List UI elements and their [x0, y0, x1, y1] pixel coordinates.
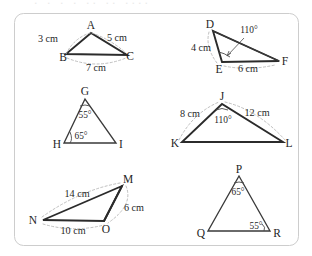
angle-label-e: 110° — [240, 25, 258, 35]
triangle-abc: A B C 3 cm 5 cm 7 cm — [38, 19, 134, 73]
angle-label-g: 55° — [78, 110, 91, 120]
vertex-label-f: F — [282, 55, 288, 67]
triangle-def-side-df — [213, 31, 279, 61]
triangle-ghi-angle-arc-h — [70, 132, 72, 143]
side-label-bc: 7 cm — [86, 62, 106, 73]
side-label-ac: 5 cm — [107, 32, 127, 43]
top-cut-off-text-strip: . . . . .. .. .... — [0, 0, 312, 11]
vertex-label-a: A — [87, 19, 96, 31]
vertex-label-c: C — [126, 50, 134, 62]
side-label-mo: 6 cm — [124, 202, 144, 213]
side-label-ef: 6 cm — [238, 63, 258, 74]
angle-label-h: 65° — [74, 131, 87, 141]
side-label-de: 4 cm — [191, 42, 211, 53]
vertex-label-d: D — [206, 18, 214, 30]
vertex-label-i: I — [119, 138, 123, 150]
worksheet-frame — [15, 14, 299, 246]
vertex-label-k: K — [171, 137, 180, 149]
vertex-label-l: L — [285, 137, 292, 149]
triangle-mno: M N O 14 cm 6 cm 10 cm — [29, 173, 144, 236]
side-label-jk: 8 cm — [180, 108, 200, 119]
triangle-mno-side-mo — [104, 186, 122, 221]
vertex-label-j: J — [220, 90, 225, 102]
vertex-label-m: M — [123, 173, 133, 185]
vertex-label-n: N — [29, 214, 38, 226]
vertex-label-q: Q — [197, 227, 206, 239]
angle-label-j: 110° — [214, 115, 232, 125]
triangle-ghi-angle-arc-g — [80, 105, 90, 106]
side-label-no: 10 cm — [60, 225, 85, 236]
triangle-pqr-angle-arc-p — [234, 182, 244, 183]
triangle-pqr: P Q R 65° 55° — [197, 163, 281, 239]
angle-label-r: 55° — [249, 221, 262, 231]
triangle-def: D E F 4 cm 6 cm 110° — [191, 18, 288, 75]
vertex-label-p: P — [236, 163, 242, 175]
geometry-figures-svg: A B C 3 cm 5 cm 7 cm D E F 4 cm 6 cm 110… — [0, 0, 312, 256]
triangle-jkl: J K L 8 cm 12 cm 110° — [171, 90, 293, 149]
vertex-label-h: H — [53, 138, 61, 150]
side-label-mn: 14 cm — [64, 188, 89, 199]
top-cut-off-text: . . . . .. .. .... — [34, 0, 151, 7]
vertex-label-r: R — [273, 227, 281, 239]
angle-label-p: 65° — [231, 187, 244, 197]
side-label-jl: 12 cm — [244, 107, 269, 118]
side-label-ab: 3 cm — [38, 33, 58, 44]
vertex-label-e: E — [215, 63, 222, 75]
vertex-label-b: B — [59, 51, 67, 63]
vertex-label-o: O — [102, 223, 110, 235]
worksheet-canvas: A B C 3 cm 5 cm 7 cm D E F 4 cm 6 cm 110… — [0, 0, 312, 256]
vertex-label-g: G — [81, 85, 89, 97]
triangle-ghi: G H I 55° 65° — [53, 85, 123, 150]
